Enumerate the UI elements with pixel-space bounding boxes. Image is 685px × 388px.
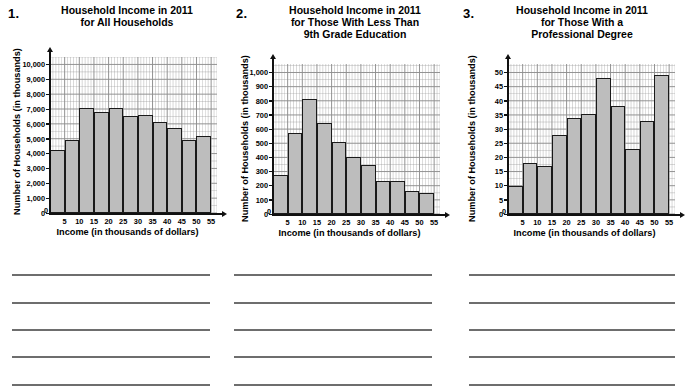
x-axis-label: Income (in thousands of dollars) bbox=[252, 228, 447, 238]
y-tick-mark bbox=[504, 199, 507, 200]
y-tick-label: 500 bbox=[228, 139, 268, 148]
y-tick-mark bbox=[504, 157, 507, 158]
histogram-bar bbox=[376, 181, 391, 214]
histogram-bar bbox=[50, 150, 65, 213]
y-tick-label: 0 bbox=[0, 209, 45, 218]
y-tick-mark bbox=[269, 129, 272, 130]
y-tick-label: 0 bbox=[228, 210, 268, 219]
y-tick-mark bbox=[269, 171, 272, 172]
histogram-bar bbox=[317, 123, 332, 214]
x-tick-label: 40 bbox=[617, 218, 633, 227]
histogram-bar bbox=[390, 181, 405, 214]
histogram-bar bbox=[94, 112, 109, 213]
y-tick-label: 7,000 bbox=[0, 105, 45, 114]
y-tick-mark bbox=[269, 157, 272, 158]
y-axis-arrow-icon bbox=[47, 47, 53, 52]
answer-line[interactable] bbox=[234, 274, 432, 276]
y-tick-label: 700 bbox=[228, 111, 268, 120]
plot-area bbox=[50, 57, 217, 213]
answer-line[interactable] bbox=[12, 274, 210, 276]
y-tick-label: 5,000 bbox=[0, 135, 45, 144]
answer-line[interactable] bbox=[469, 356, 675, 358]
x-tick-label: 55 bbox=[203, 217, 219, 226]
x-tick-label: 25 bbox=[573, 218, 589, 227]
y-tick-mark bbox=[504, 185, 507, 186]
answer-line[interactable] bbox=[234, 329, 432, 331]
y-tick-mark bbox=[269, 86, 272, 87]
x-tick-label: 10 bbox=[294, 218, 310, 227]
answer-line[interactable] bbox=[469, 384, 675, 386]
answer-line[interactable] bbox=[12, 302, 210, 304]
answer-line[interactable] bbox=[469, 302, 675, 304]
y-tick-label: 10,000 bbox=[0, 60, 45, 69]
histogram-bar bbox=[332, 142, 347, 214]
y-tick-mark bbox=[46, 94, 49, 95]
y-axis-line bbox=[49, 52, 51, 213]
y-tick-label: 8,000 bbox=[0, 90, 45, 99]
chart-1: Number of Households (in thousands) Inco… bbox=[0, 0, 227, 248]
answer-line[interactable] bbox=[12, 356, 210, 358]
x-tick-label: 35 bbox=[603, 218, 619, 227]
x-tick-label: 20 bbox=[324, 218, 340, 227]
y-tick-mark bbox=[46, 168, 49, 169]
y-axis-line bbox=[272, 59, 274, 214]
y-tick-label: 400 bbox=[228, 153, 268, 162]
y-tick-label: 40 bbox=[455, 97, 503, 106]
x-tick-label: 25 bbox=[115, 217, 131, 226]
x-tick-label: 15 bbox=[309, 218, 325, 227]
y-tick-label: 3,000 bbox=[0, 164, 45, 173]
y-tick-mark bbox=[504, 86, 507, 87]
x-axis-arrow-icon bbox=[445, 212, 450, 218]
origin-label: 0 bbox=[499, 207, 509, 216]
answer-line[interactable] bbox=[469, 329, 675, 331]
y-tick-mark bbox=[46, 79, 49, 80]
y-tick-label: 0 bbox=[455, 210, 503, 219]
y-tick-label: 600 bbox=[228, 125, 268, 134]
x-tick-label: 15 bbox=[86, 217, 102, 226]
histogram-bar bbox=[405, 191, 420, 214]
answer-line[interactable] bbox=[469, 274, 675, 276]
y-tick-label: 50 bbox=[455, 68, 503, 77]
y-tick-mark bbox=[504, 129, 507, 130]
x-axis-arrow-icon bbox=[680, 212, 685, 218]
x-tick-label: 10 bbox=[71, 217, 87, 226]
y-tick-mark bbox=[269, 72, 272, 73]
answer-line[interactable] bbox=[12, 329, 210, 331]
answer-lines bbox=[455, 262, 682, 388]
y-tick-mark bbox=[269, 114, 272, 115]
x-axis-arrow-icon bbox=[222, 211, 227, 217]
answer-line[interactable] bbox=[12, 384, 210, 386]
y-tick-label: 1,000 bbox=[228, 68, 268, 77]
answer-line[interactable] bbox=[234, 356, 432, 358]
answer-line[interactable] bbox=[234, 302, 432, 304]
chart-3: Number of Households (in thousands) Inco… bbox=[455, 0, 682, 248]
y-tick-mark bbox=[46, 64, 49, 65]
answer-lines bbox=[228, 262, 455, 388]
answer-lines bbox=[0, 262, 227, 388]
y-tick-label: 20 bbox=[455, 153, 503, 162]
answer-line[interactable] bbox=[234, 384, 432, 386]
x-tick-label: 5 bbox=[515, 218, 531, 227]
histogram-bar bbox=[346, 157, 361, 214]
x-tick-label: 15 bbox=[544, 218, 560, 227]
histogram-bar bbox=[273, 175, 288, 214]
plot-area bbox=[508, 64, 675, 214]
x-axis-line bbox=[272, 214, 445, 216]
y-tick-label: 25 bbox=[455, 139, 503, 148]
y-tick-label: 45 bbox=[455, 82, 503, 91]
y-tick-label: 300 bbox=[228, 167, 268, 176]
x-axis-line bbox=[507, 214, 680, 216]
histogram-bar bbox=[567, 118, 582, 214]
histogram-bar bbox=[581, 114, 596, 214]
y-tick-label: 4,000 bbox=[0, 149, 45, 158]
y-tick-mark bbox=[46, 123, 49, 124]
y-tick-mark bbox=[504, 143, 507, 144]
y-tick-mark bbox=[504, 171, 507, 172]
x-tick-label: 20 bbox=[559, 218, 575, 227]
y-tick-label: 800 bbox=[228, 97, 268, 106]
origin-label: 0 bbox=[264, 207, 274, 216]
x-tick-label: 35 bbox=[145, 217, 161, 226]
x-tick-label: 30 bbox=[588, 218, 604, 227]
y-axis-arrow-icon bbox=[270, 54, 276, 59]
x-tick-label: 40 bbox=[382, 218, 398, 227]
